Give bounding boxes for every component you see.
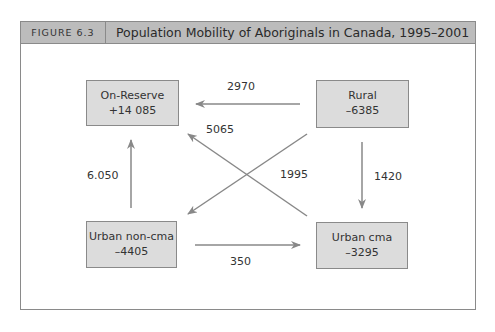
node-net: +14 085 xyxy=(87,103,178,118)
node-urban-cma: Urban cma –3295 xyxy=(316,222,408,269)
node-net: –6385 xyxy=(317,103,408,118)
node-urban-non-cma: Urban non-cma –4405 xyxy=(86,221,177,268)
node-rural: Rural –6385 xyxy=(316,80,409,128)
flow-label-6050: 6.050 xyxy=(87,169,119,182)
node-on-reserve: On-Reserve +14 085 xyxy=(86,80,179,126)
flow-label-1995: 1995 xyxy=(280,168,308,181)
flow-label-1420: 1420 xyxy=(374,170,402,183)
node-net: –4405 xyxy=(87,244,176,259)
flow-label-5065: 5065 xyxy=(206,123,234,136)
node-name: Urban cma xyxy=(317,230,407,245)
flow-label-350: 350 xyxy=(230,255,251,268)
flow-arrows xyxy=(0,0,495,332)
node-name: Rural xyxy=(317,88,408,103)
flow-label-2970: 2970 xyxy=(227,80,255,93)
node-name: On-Reserve xyxy=(87,88,178,103)
node-name: Urban non-cma xyxy=(87,229,176,244)
node-net: –3295 xyxy=(317,245,407,260)
